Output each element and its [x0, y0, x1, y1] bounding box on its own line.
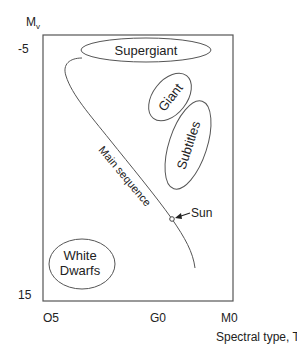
sun-label: Sun — [191, 206, 212, 220]
supergiant-label: Supergiant — [115, 43, 178, 58]
giant-region-group: Giant — [140, 65, 200, 128]
x-tick-o5: O5 — [43, 311, 59, 325]
x-tick-m0: M0 — [221, 311, 238, 325]
white-dwarfs-label-line1: White — [63, 248, 96, 263]
y-axis-label: Mv — [26, 15, 40, 31]
giant-label: Giant — [155, 80, 186, 114]
x-tick-g0: G0 — [150, 311, 166, 325]
main-sequence-label: Main sequence — [96, 144, 153, 209]
y-tick-bottom: 15 — [18, 288, 32, 302]
sun-arrow-icon — [175, 213, 182, 219]
hr-diagram: Mv -5 15 O5 G0 M0 Spectral type, T Super… — [0, 0, 297, 354]
x-axis-label: Spectral type, T — [216, 330, 297, 344]
y-tick-top: -5 — [18, 42, 29, 56]
sun-marker — [170, 217, 175, 222]
white-dwarfs-label-line2: Dwarfs — [60, 263, 101, 278]
subtitles-label: Subtitles — [174, 119, 204, 172]
